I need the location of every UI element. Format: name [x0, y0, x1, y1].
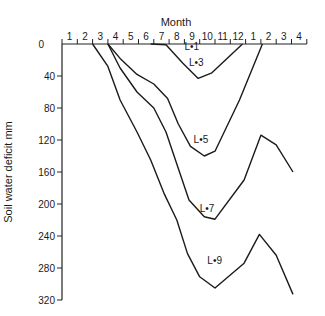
y-tick-label: 320 [38, 295, 55, 306]
x-tick-label: 10 [202, 31, 214, 42]
series-labels: L•1L•3L•5L•7L•9 [184, 41, 222, 266]
y-tick-label: 0 [38, 39, 44, 50]
series-lines [93, 44, 293, 294]
x-tick-label: 8 [174, 31, 180, 42]
x-tick-label: 3 [281, 31, 287, 42]
x-tick-label: 6 [143, 31, 149, 42]
x-tick-label: 1 [67, 31, 73, 42]
series-line [108, 44, 263, 156]
x-tick-label: 2 [82, 31, 88, 42]
series-label: L•5 [194, 134, 209, 145]
y-tick-label: 240 [38, 231, 55, 242]
soil-water-deficit-chart: Month 1234567891011121234 04080120160200… [0, 0, 325, 316]
y-tick-label: 120 [38, 135, 55, 146]
y-tick-label: 200 [38, 199, 55, 210]
y-axis: 04080120160200240280320 [38, 39, 62, 306]
x-tick-label: 12 [232, 31, 244, 42]
x-tick-label: 2 [266, 31, 272, 42]
x-tick-label: 5 [128, 31, 134, 42]
y-tick-label: 40 [44, 71, 56, 82]
x-tick-label: 1 [250, 31, 256, 42]
x-tick-label: 3 [97, 31, 103, 42]
x-tick-label: 4 [113, 31, 119, 42]
series-label: L•7 [200, 203, 215, 214]
series-label: L•9 [207, 255, 222, 266]
series-label: L•3 [189, 57, 204, 68]
series-line [93, 44, 293, 294]
series-line [108, 44, 293, 219]
y-tick-label: 280 [38, 263, 55, 274]
x-tick-label: 11 [217, 31, 228, 42]
y-tick-label: 160 [38, 167, 55, 178]
x-tick-label: 9 [189, 31, 195, 42]
x-tick-label: 7 [159, 31, 165, 42]
y-tick-label: 80 [44, 103, 56, 114]
x-axis-title: Month [161, 16, 192, 28]
series-label: L•1 [184, 41, 199, 52]
y-axis-title: Soil water deficit mm [2, 121, 14, 222]
x-tick-label: 4 [296, 31, 302, 42]
